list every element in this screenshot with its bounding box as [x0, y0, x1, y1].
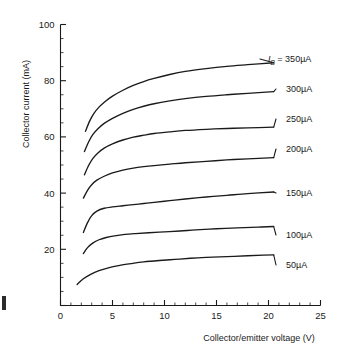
curve-200µA — [83, 158, 273, 198]
svg-text:60: 60 — [44, 131, 55, 142]
svg-text:100: 100 — [39, 19, 55, 30]
transistor-output-characteristics-chart: 204060801000510152025 IB = 350µA300µA250… — [0, 0, 343, 354]
svg-text:25: 25 — [315, 310, 326, 321]
curve-label-350µA: IB = 350µA — [268, 54, 311, 66]
axis-ticks — [61, 25, 321, 306]
curve-50µA — [77, 255, 274, 285]
axis-tick-labels: 204060801000510152025 — [39, 19, 326, 321]
svg-text:20: 20 — [44, 244, 55, 255]
svg-text:10: 10 — [159, 310, 170, 321]
axes — [61, 25, 321, 306]
curve-label-200µA: 200µA — [286, 144, 312, 154]
chart-figure: 204060801000510152025 IB = 350µA300µA250… — [0, 0, 343, 354]
curve-series — [77, 63, 274, 285]
curve-150µA — [83, 192, 273, 232]
curve-label-100µA: 100µA — [286, 230, 312, 240]
curve-label-250µA: 250µA — [286, 114, 312, 124]
svg-text:0: 0 — [58, 310, 63, 321]
svg-text:5: 5 — [110, 310, 115, 321]
curve-100µA — [83, 227, 273, 254]
page-edge-mark — [2, 296, 6, 310]
x-axis-title: Collector/emitter voltage (V) — [203, 333, 315, 343]
svg-text:80: 80 — [44, 75, 55, 86]
curve-label-300µA: 300µA — [286, 84, 312, 94]
svg-text:40: 40 — [44, 188, 55, 199]
curve-label-50µA: 50µA — [286, 260, 307, 270]
curve-label-150µA: 150µA — [286, 188, 312, 198]
curve-350µA — [85, 63, 273, 132]
svg-text:15: 15 — [211, 310, 222, 321]
curve-label-leaders — [260, 59, 276, 265]
curve-300µA — [84, 92, 273, 152]
y-axis-title: Collector current (mA) — [21, 60, 31, 148]
svg-text:20: 20 — [263, 310, 274, 321]
curve-labels: IB = 350µA300µA250µA200µA150µA100µA50µA — [268, 54, 312, 270]
curve-250µA — [84, 127, 273, 175]
